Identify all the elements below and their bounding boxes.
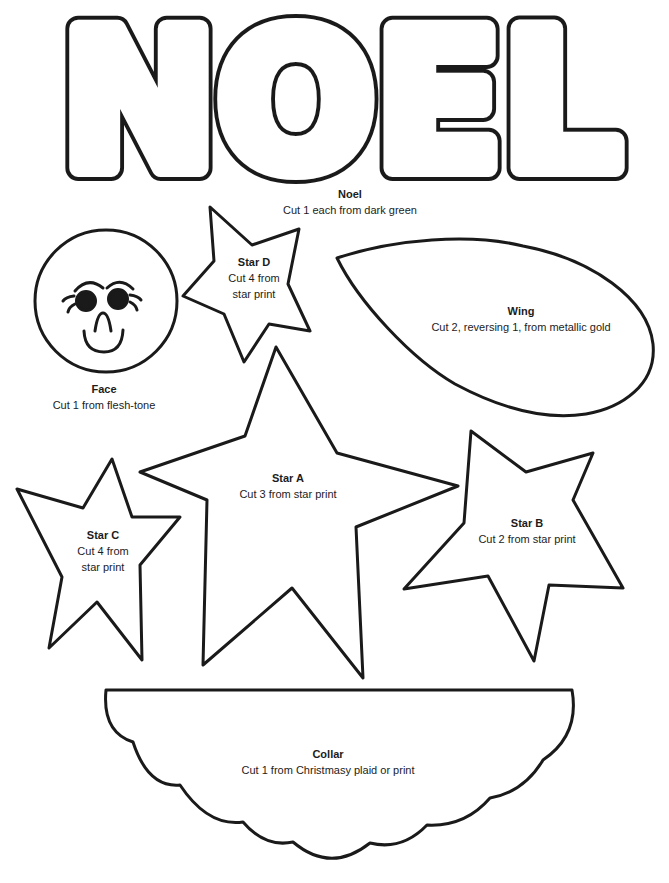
noel-label-name: Noel: [283, 186, 417, 202]
face-shape: [35, 230, 177, 372]
face-left-eye: [77, 292, 96, 311]
star-b-label-instruction: Cut 2 from star print: [478, 531, 575, 547]
star-c-label: Star C Cut 4 from star print: [77, 527, 128, 575]
face-label-instruction: Cut 1 from flesh-tone: [53, 397, 156, 413]
noel-bubble-letters-fill: NOEL: [61, 0, 621, 213]
face-label-name: Face: [53, 381, 156, 397]
noel-label-instruction: Cut 1 each from dark green: [283, 202, 417, 218]
collar-label-instruction: Cut 1 from Christmasy plaid or print: [242, 762, 415, 778]
star-a-label: Star A Cut 3 from star print: [239, 470, 336, 502]
noel-label: Noel Cut 1 each from dark green: [283, 186, 417, 218]
star-b-label: Star B Cut 2 from star print: [478, 515, 575, 547]
star-c-label-instruction-line2: star print: [77, 559, 128, 575]
star-d-label-instruction-line1: Cut 4 from: [228, 270, 279, 286]
star-a-label-instruction: Cut 3 from star print: [239, 486, 336, 502]
star-d-label-name: Star D: [228, 254, 279, 270]
star-a-shape: [140, 347, 458, 678]
pattern-page: NOEL NOEL: [0, 0, 669, 883]
star-b-label-name: Star B: [478, 515, 575, 531]
face-label: Face Cut 1 from flesh-tone: [53, 381, 156, 413]
wing-label: Wing Cut 2, reversing 1, from metallic g…: [431, 303, 610, 335]
collar-label: Collar Cut 1 from Christmasy plaid or pr…: [242, 746, 415, 778]
wing-label-instruction: Cut 2, reversing 1, from metallic gold: [431, 319, 610, 335]
star-a-label-name: Star A: [239, 470, 336, 486]
star-d-label-instruction-line2: star print: [228, 286, 279, 302]
wing-label-name: Wing: [431, 303, 610, 319]
star-c-label-name: Star C: [77, 527, 128, 543]
collar-label-name: Collar: [242, 746, 415, 762]
star-d-label: Star D Cut 4 from star print: [228, 254, 279, 302]
star-c-label-instruction-line1: Cut 4 from: [77, 543, 128, 559]
face-right-eye: [109, 290, 128, 309]
